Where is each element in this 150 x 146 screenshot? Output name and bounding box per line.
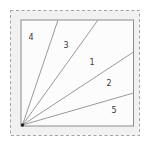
square-outline [21, 20, 134, 126]
origin-dot [21, 123, 24, 126]
region-label-2: 2 [106, 79, 111, 88]
region-label-4: 4 [28, 33, 33, 42]
region-label-3: 3 [63, 41, 68, 50]
fan-diagram: 43125 [0, 0, 150, 146]
region-label-5: 5 [111, 106, 116, 115]
figure: 43125 [0, 0, 150, 146]
region-label-1: 1 [89, 58, 94, 67]
